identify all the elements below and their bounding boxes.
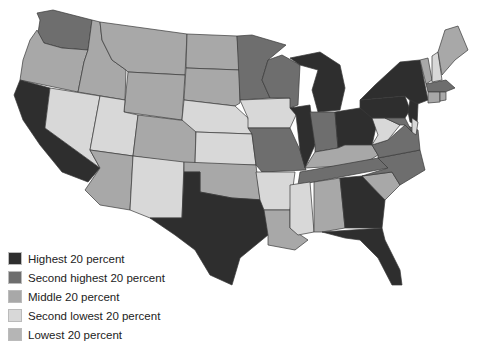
state-RI xyxy=(440,92,446,101)
state-IA xyxy=(240,98,296,128)
legend-swatch xyxy=(8,271,22,284)
legend-swatch xyxy=(8,252,22,265)
state-FL xyxy=(322,228,402,285)
state-NM xyxy=(130,156,184,218)
legend-item-highest: Highest 20 percent xyxy=(8,249,165,268)
legend-label: Middle 20 percent xyxy=(28,291,119,303)
legend-label: Lowest 20 percent xyxy=(28,329,122,341)
legend-item-middle: Middle 20 percent xyxy=(8,287,165,306)
state-AL xyxy=(314,178,345,232)
legend-label: Second lowest 20 percent xyxy=(28,310,160,322)
state-MS xyxy=(290,182,314,235)
state-NE xyxy=(182,100,252,134)
legend-item-second-lowest: Second lowest 20 percent xyxy=(8,306,165,325)
legend-swatch xyxy=(8,290,22,303)
state-MO xyxy=(248,128,306,172)
state-ND xyxy=(186,34,240,70)
state-WY xyxy=(124,72,185,120)
state-AR xyxy=(256,172,295,210)
legend-label: Highest 20 percent xyxy=(28,253,125,265)
legend-label: Second highest 20 percent xyxy=(28,272,165,284)
legend-item-second-highest: Second highest 20 percent xyxy=(8,268,165,287)
state-ME xyxy=(438,26,468,75)
state-CT xyxy=(428,92,440,103)
legend-item-lowest: Lowest 20 percent xyxy=(8,325,165,344)
state-SD xyxy=(184,68,240,106)
legend-swatch xyxy=(8,309,22,322)
state-KS xyxy=(195,132,256,165)
state-MA xyxy=(426,80,455,92)
map-legend: Highest 20 percent Second highest 20 per… xyxy=(8,249,165,344)
legend-swatch xyxy=(8,328,22,341)
